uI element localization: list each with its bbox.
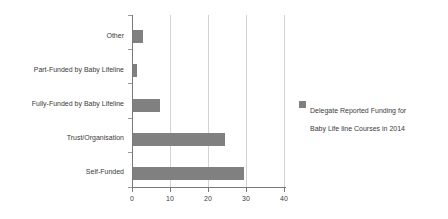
- x-tick-label-30: 30: [234, 194, 258, 203]
- category-axis-labels: Other Part-Funded by Baby Lifeline Fully…: [0, 15, 128, 187]
- legend-item-label: Delegate Reported Funding for Baby Life …: [310, 107, 406, 132]
- chart-legend: Delegate Reported Funding for Baby Life …: [299, 99, 447, 135]
- x-tick-mark-0: [132, 188, 133, 192]
- gridline-30: [246, 15, 247, 187]
- plot-area: [132, 15, 285, 187]
- gridline-10: [170, 15, 171, 187]
- legend-item: Delegate Reported Funding for Baby Life …: [299, 99, 447, 135]
- category-label-fully-funded-by-baby-lifeline: Fully-Funded by Baby Lifeline: [0, 100, 124, 108]
- gridline-20: [208, 15, 209, 187]
- category-label-self-funded: Self-Funded: [0, 168, 124, 176]
- bar-chart: Other Part-Funded by Baby Lifeline Fully…: [0, 0, 448, 219]
- x-tick-mark-10: [170, 188, 171, 192]
- x-axis-line: [132, 187, 286, 188]
- bar-other: [133, 30, 143, 43]
- category-label-other: Other: [0, 32, 124, 40]
- x-tick-label-20: 20: [196, 194, 220, 203]
- x-tick-label-0: 0: [120, 194, 144, 203]
- x-tick-label-40: 40: [272, 194, 296, 203]
- x-tick-label-10: 10: [158, 194, 182, 203]
- x-tick-mark-20: [208, 188, 209, 192]
- category-label-trust-organisation: Trust/Organisation: [0, 134, 124, 142]
- bar-part-funded-by-baby-lifeline: [133, 64, 137, 77]
- bar-self-funded: [133, 167, 244, 180]
- x-tick-mark-30: [246, 188, 247, 192]
- bar-trust-organisation: [133, 133, 225, 146]
- gridline-40: [284, 15, 285, 187]
- x-tick-mark-40: [284, 188, 285, 192]
- category-label-part-funded-by-baby-lifeline: Part-Funded by Baby Lifeline: [0, 66, 124, 74]
- bar-fully-funded-by-baby-lifeline: [133, 99, 160, 112]
- legend-square-swatch-icon: [299, 101, 306, 108]
